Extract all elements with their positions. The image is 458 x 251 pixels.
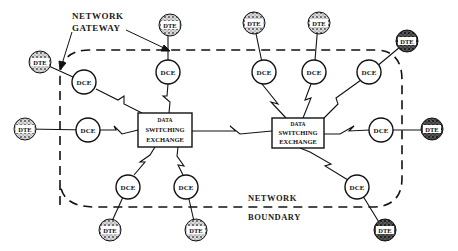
exchange-left: DATA SWITCHING EXCHANGE: [138, 113, 192, 147]
svg-text:DCE: DCE: [77, 79, 92, 87]
dte-node: DTE: [308, 12, 330, 34]
dce-node: DCE: [72, 70, 96, 94]
dce-node: DCE: [174, 175, 198, 199]
svg-text:DTE: DTE: [400, 38, 413, 45]
dce-node: DCE: [156, 60, 180, 84]
gateway-label-line1: NETWORK: [72, 11, 124, 21]
exchange-left-line2: SWITCHING: [145, 126, 184, 133]
dce-node: DCE: [345, 175, 369, 199]
dte-node: DTE: [185, 219, 207, 241]
svg-text:DCE: DCE: [362, 69, 377, 77]
svg-text:DCE: DCE: [121, 184, 136, 192]
svg-text:DTE: DTE: [103, 227, 116, 234]
dte-node: DTE: [29, 51, 51, 73]
svg-text:DTE: DTE: [18, 126, 31, 133]
exchange-right-line3: EXCHANGE: [279, 138, 317, 145]
svg-text:DTE: DTE: [312, 20, 325, 27]
svg-text:DCE: DCE: [179, 184, 194, 192]
dte-node: DTE: [421, 118, 443, 140]
dte-node: DTE: [396, 30, 418, 52]
svg-text:DTE: DTE: [189, 227, 202, 234]
dce-node: DCE: [369, 118, 393, 142]
dte-node: DTE: [243, 12, 265, 34]
exchange-right-line2: SWITCHING: [278, 129, 317, 136]
svg-text:DCE: DCE: [350, 184, 365, 192]
boundary-label-line2: BOUNDARY: [248, 212, 301, 222]
dce-node: DCE: [76, 118, 100, 142]
network-diagram: DATA SWITCHING EXCHANGE DATA SWITCHING E…: [0, 0, 458, 251]
dte-node: DTE: [99, 219, 121, 241]
gateway-label-line2: GATEWAY: [72, 23, 121, 33]
dte-node: DTE: [14, 118, 36, 140]
exchange-right-line1: DATA: [291, 121, 306, 127]
svg-text:DTE: DTE: [163, 22, 176, 29]
svg-text:DCE: DCE: [81, 127, 96, 135]
dce-node: DCE: [252, 60, 276, 84]
svg-text:DCE: DCE: [161, 69, 176, 77]
dce-exchange-links: [96, 80, 370, 180]
svg-text:DCE: DCE: [307, 69, 322, 77]
svg-text:DTE: DTE: [425, 126, 438, 133]
svg-text:DTE: DTE: [33, 59, 46, 66]
svg-text:DCE: DCE: [257, 69, 272, 77]
boundary-label-line1: NETWORK: [248, 193, 297, 203]
svg-text:DTE: DTE: [247, 20, 260, 27]
svg-text:DTE: DTE: [378, 227, 391, 234]
dce-node: DCE: [116, 175, 140, 199]
dce-node: DCE: [302, 60, 326, 84]
exchange-left-line3: EXCHANGE: [146, 136, 184, 143]
dce-node: DCE: [357, 60, 381, 84]
exchange-left-line1: DATA: [158, 117, 173, 123]
exchange-right: DATA SWITCHING EXCHANGE: [272, 118, 324, 148]
dte-node: DTE: [374, 219, 396, 241]
svg-text:DCE: DCE: [374, 127, 389, 135]
dte-node: DTE: [159, 14, 181, 36]
